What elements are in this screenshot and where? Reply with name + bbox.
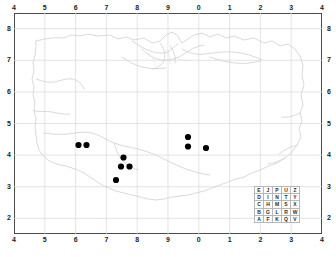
x-tick-bottom-4: 8: [132, 236, 142, 244]
record-dot: [120, 154, 126, 160]
y-tick-right-4: 4: [325, 151, 333, 159]
grid-letter-cell: A: [255, 215, 264, 222]
grid-letter-cell: D: [255, 194, 264, 201]
grid-letter-cell: B: [255, 208, 264, 215]
record-dot: [113, 177, 119, 183]
x-tick-top-10: 4: [317, 4, 327, 12]
grid-letter-cell: I: [264, 194, 273, 201]
y-tick-right-5: 3: [325, 183, 333, 191]
x-tick-bottom-2: 6: [71, 236, 81, 244]
y-tick-right-3: 5: [325, 120, 333, 128]
grid-letter-cell: M: [273, 201, 282, 208]
grid-letter-cell: W: [291, 208, 300, 215]
grid-letter-cell: X: [291, 201, 300, 208]
y-tick-left-1: 7: [5, 56, 13, 64]
grid-letter-cell: C: [255, 201, 264, 208]
grid-letter-cell: U: [282, 187, 291, 194]
grid-letter-row: CHMSX: [255, 201, 300, 208]
x-tick-bottom-5: 9: [163, 236, 173, 244]
record-dot: [83, 142, 89, 148]
x-tick-top-2: 6: [71, 4, 81, 12]
grid-letter-square: EJPUZDINTYCHMSXBGLRWAFKQV: [254, 186, 300, 223]
x-tick-top-6: 0: [194, 4, 204, 12]
grid-letter-cell: Z: [291, 187, 300, 194]
x-tick-bottom-10: 4: [317, 236, 327, 244]
grid-letter-cell: Q: [282, 215, 291, 222]
grid-letter-row: BGLRW: [255, 208, 300, 215]
grid-letter-cell: S: [282, 201, 291, 208]
x-tick-bottom-0: 4: [9, 236, 19, 244]
x-tick-bottom-3: 7: [101, 236, 111, 244]
grid-letter-cell: P: [273, 187, 282, 194]
x-tick-top-1: 5: [40, 4, 50, 12]
x-tick-top-3: 7: [101, 4, 111, 12]
y-tick-left-0: 8: [5, 25, 13, 33]
grid-letter-cell: E: [255, 187, 264, 194]
grid-letter-cell: T: [282, 194, 291, 201]
grid-letter-cell: Y: [291, 194, 300, 201]
grid-letter-cell: K: [273, 215, 282, 222]
y-tick-right-1: 7: [325, 56, 333, 64]
grid-letter-row: EJPUZ: [255, 187, 300, 194]
record-dot: [75, 142, 81, 148]
y-tick-left-5: 3: [5, 183, 13, 191]
grid-letter-cell: J: [264, 187, 273, 194]
x-tick-top-4: 8: [132, 4, 142, 12]
record-dot: [126, 163, 132, 169]
x-tick-top-5: 9: [163, 4, 173, 12]
x-tick-top-9: 3: [286, 4, 296, 12]
y-tick-left-3: 5: [5, 120, 13, 128]
grid-letter-row: AFKQV: [255, 215, 300, 222]
x-tick-bottom-1: 5: [40, 236, 50, 244]
x-tick-top-8: 2: [255, 4, 265, 12]
record-dot: [203, 145, 209, 151]
x-tick-top-0: 4: [9, 4, 19, 12]
y-tick-right-6: 2: [325, 214, 333, 222]
grid-letter-cell: N: [273, 194, 282, 201]
record-dot: [185, 143, 191, 149]
record-dot: [118, 163, 124, 169]
record-dot: [185, 134, 191, 140]
y-tick-left-6: 2: [5, 214, 13, 222]
x-tick-bottom-8: 2: [255, 236, 265, 244]
y-tick-left-2: 6: [5, 88, 13, 96]
grid-letter-cell: F: [264, 215, 273, 222]
x-tick-bottom-7: 1: [225, 236, 235, 244]
grid-letter-cell: L: [273, 208, 282, 215]
distribution-map-figure: 45678901234 45678901234 8765432 8765432 …: [0, 0, 336, 257]
y-tick-right-0: 8: [325, 25, 333, 33]
x-tick-bottom-6: 0: [194, 236, 204, 244]
grid-letter-cell: R: [282, 208, 291, 215]
y-tick-right-2: 6: [325, 88, 333, 96]
grid-letter-cell: G: [264, 208, 273, 215]
grid-letter-cell: V: [291, 215, 300, 222]
x-tick-bottom-9: 3: [286, 236, 296, 244]
grid-letter-row: DINTY: [255, 194, 300, 201]
y-tick-left-4: 4: [5, 151, 13, 159]
x-tick-top-7: 1: [225, 4, 235, 12]
grid-letter-table: EJPUZDINTYCHMSXBGLRWAFKQV: [254, 186, 300, 223]
grid-letter-cell: H: [264, 201, 273, 208]
